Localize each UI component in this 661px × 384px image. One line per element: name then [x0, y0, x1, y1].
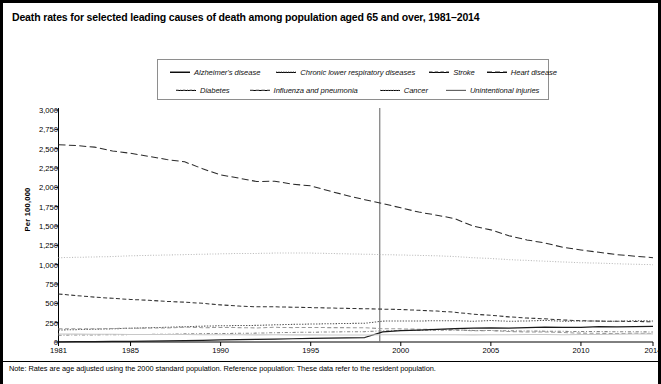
- y-tick-label: 1,750: [24, 202, 58, 211]
- legend-item[interactable]: Stroke: [429, 68, 475, 77]
- figure-container: Death rates for selected leading causes …: [0, 0, 661, 384]
- legend-item-label: Stroke: [453, 68, 475, 77]
- y-tick-label: 3,000: [24, 106, 58, 115]
- chart-legend: Alzheimer's diseaseChronic lower respira…: [157, 59, 549, 100]
- legend-line-swatch-icon: [429, 68, 449, 76]
- legend-item[interactable]: Cancer: [380, 86, 428, 95]
- series-line: [59, 326, 654, 341]
- figure-title: Death rates for selected leading causes …: [12, 11, 632, 24]
- figure-note: Note: Rates are age adjusted using the 2…: [9, 364, 436, 373]
- y-axis-ticks: 3,0002,7502,5002,2502,0001,7501,5001,250…: [22, 0, 58, 384]
- x-tick-label: 2005: [482, 346, 499, 355]
- series-line: [59, 327, 654, 333]
- series-line: [59, 253, 654, 265]
- legend-item-label: Influenza and pneumonia: [274, 86, 358, 95]
- x-tick-label: 2014: [645, 346, 661, 355]
- legend-item[interactable]: Influenza and pneumonia: [250, 86, 358, 95]
- x-tick-label: 2000: [392, 346, 409, 355]
- x-tick-label: 1985: [122, 346, 139, 355]
- series-line: [59, 330, 654, 335]
- series-line: [59, 145, 654, 258]
- frame-left-border: [0, 0, 3, 384]
- x-tick-label: 1995: [302, 346, 319, 355]
- y-tick-label: 1,500: [24, 222, 58, 231]
- x-tick-label: 1990: [212, 346, 229, 355]
- legend-item[interactable]: Alzheimer's disease: [170, 68, 260, 77]
- x-tick-label: 1981: [50, 346, 67, 355]
- series-line: [59, 334, 654, 335]
- legend-line-swatch-icon: [446, 86, 466, 94]
- legend-item-label: Diabetes: [200, 86, 230, 95]
- y-tick-label: 500: [24, 299, 58, 308]
- legend-line-swatch-icon: [176, 86, 196, 94]
- legend-line-swatch-icon: [487, 68, 507, 76]
- legend-line-swatch-icon: [170, 68, 190, 76]
- y-tick-label: 1,250: [24, 241, 58, 250]
- legend-item[interactable]: Diabetes: [176, 86, 230, 95]
- legend-line-swatch-icon: [380, 86, 400, 94]
- y-tick-label: 750: [24, 280, 58, 289]
- y-tick-label: 2,000: [24, 183, 58, 192]
- legend-item-label: Unintentional injuries: [470, 86, 539, 95]
- note-divider: [3, 361, 658, 362]
- x-tick-label: 2010: [572, 346, 589, 355]
- y-tick-label: 2,250: [24, 164, 58, 173]
- y-tick-label: 250: [24, 318, 58, 327]
- legend-item[interactable]: Heart disease: [487, 68, 557, 77]
- legend-row-primary: Alzheimer's diseaseChronic lower respira…: [158, 63, 548, 81]
- legend-line-swatch-icon: [276, 68, 296, 76]
- y-tick-label: 1,000: [24, 260, 58, 269]
- y-tick-label: 2,750: [24, 125, 58, 134]
- legend-item-label: Cancer: [404, 86, 428, 95]
- frame-top-border: [0, 0, 661, 3]
- legend-item[interactable]: Chronic lower respiratory diseases: [276, 68, 415, 77]
- series-line: [59, 294, 654, 322]
- legend-item-label: Alzheimer's disease: [194, 68, 260, 77]
- legend-line-swatch-icon: [250, 86, 270, 94]
- y-tick-label: 2,500: [24, 144, 58, 153]
- series-line: [59, 320, 654, 330]
- line-chart-plot: [0, 0, 661, 384]
- legend-item-label: Heart disease: [511, 68, 557, 77]
- legend-item-label: Chronic lower respiratory diseases: [300, 68, 415, 77]
- legend-item[interactable]: Unintentional injuries: [446, 86, 539, 95]
- legend-row-secondary: DiabetesInfluenza and pneumoniaCancerUni…: [158, 81, 548, 99]
